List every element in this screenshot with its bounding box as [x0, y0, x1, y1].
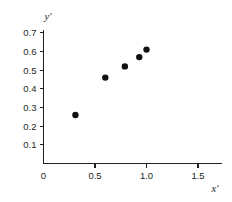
data-point	[136, 54, 142, 60]
data-point	[102, 74, 108, 80]
x-axis-title: x′	[211, 183, 220, 194]
data-point	[122, 63, 128, 69]
x-axis-tick-label: 1.5	[191, 170, 204, 181]
y-axis-tick-label: 0.7	[23, 27, 36, 38]
data-point	[72, 112, 78, 118]
y-axis-title: y′	[44, 11, 53, 22]
y-axis-tick-label: 0.2	[23, 121, 36, 132]
plot-canvas: 0.10.20.30.40.50.60.7 00.51.01.5 y′ x′	[0, 0, 232, 202]
x-axis-tick-label: 0	[41, 170, 46, 181]
data-point	[143, 46, 149, 52]
x-axis-tick-label: 1.0	[140, 170, 153, 181]
y-axis-tick-label: 0.4	[23, 83, 36, 94]
y-axis-tick-label: 0.5	[23, 65, 36, 76]
data-points-group	[72, 46, 149, 118]
x-axis-group: 00.51.01.5	[41, 164, 205, 181]
y-axis-tick-label: 0.1	[23, 139, 36, 150]
y-axis-tick-label: 0.6	[23, 46, 36, 57]
y-axis-group: 0.10.20.30.40.50.60.7	[23, 27, 43, 150]
scatter-plot-figure: 0.10.20.30.40.50.60.7 00.51.01.5 y′ x′	[0, 0, 232, 202]
y-axis-tick-label: 0.3	[23, 102, 36, 113]
x-axis-tick-label: 0.5	[88, 170, 101, 181]
